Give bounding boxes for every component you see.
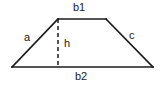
label-height-h: h (64, 38, 70, 49)
label-bottom-base-b2: b2 (75, 71, 87, 82)
label-top-base-b1: b1 (73, 2, 85, 13)
trapezoid-figure: b1 b2 a c h (0, 0, 162, 86)
label-left-leg-a: a (24, 32, 30, 43)
label-right-leg-c: c (129, 30, 135, 41)
